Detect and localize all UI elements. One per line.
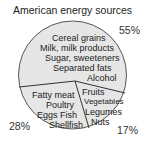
slice-label: Shellfish [49,120,83,130]
slice-label: Fatty meat [32,90,75,100]
slice-percent: 17% [117,124,138,136]
slice-label: Separated fats [53,63,112,73]
slice-percent: 28% [9,120,30,132]
slice-label: Poultry [46,100,74,110]
slice-label: Legumes [85,107,122,117]
slice-label: Eggs Fish [37,110,77,120]
slice-label: Sugar, sweeteners [45,53,120,63]
slice-label: Milk, milk products [40,43,114,53]
slice-label: Fruits [82,87,105,97]
slice-percent: 55% [119,24,140,36]
slice-label: Vegetables [84,97,124,107]
slice-label: Nuts [91,117,110,127]
slice-label: Cereal grains [52,33,106,43]
slice-label: Alcohol [87,73,117,83]
